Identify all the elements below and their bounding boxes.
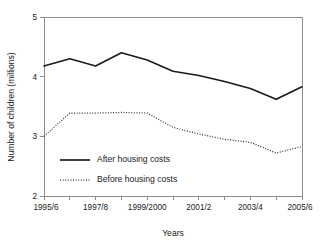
x-tick-label: 2001/2 xyxy=(186,203,211,212)
y-tick-label: 4 xyxy=(32,73,37,82)
series-line-solid xyxy=(44,53,302,100)
x-tick-label: 2003/4 xyxy=(238,203,263,212)
x-tick-label: 1999/2000 xyxy=(128,203,167,212)
y-axis-ticks: 2345 xyxy=(32,13,44,201)
y-axis-title: Number of children (millions) xyxy=(6,52,16,162)
x-tick-label: 1995/6 xyxy=(33,203,58,212)
axes xyxy=(44,17,302,196)
legend-label: After housing costs xyxy=(97,154,170,164)
line-chart: 2345 1995/61997/81999/20002001/22003/420… xyxy=(0,0,335,244)
x-tick-label: 1997/8 xyxy=(83,203,108,212)
y-tick-label: 5 xyxy=(32,13,37,22)
chart-legend: After housing costsBefore housing costs xyxy=(60,154,177,184)
chart-container: 2345 1995/61997/81999/20002001/22003/420… xyxy=(0,0,335,244)
x-axis-title: Years xyxy=(162,228,184,238)
x-tick-label: 2005/6 xyxy=(287,203,312,212)
y-tick-label: 2 xyxy=(32,192,37,201)
y-tick-label: 3 xyxy=(32,132,37,141)
data-series-group xyxy=(44,53,302,153)
x-axis-ticks: 1995/61997/81999/20002001/22003/42005/6 xyxy=(33,196,312,212)
legend-label: Before housing costs xyxy=(97,174,177,184)
series-line-dotted xyxy=(44,112,302,153)
